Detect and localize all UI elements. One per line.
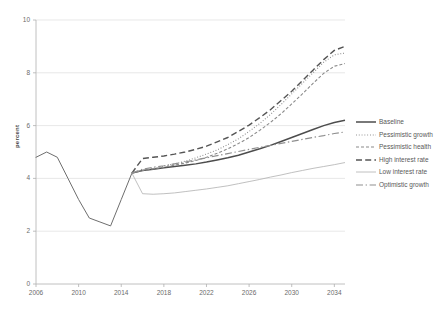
legend-item-pessimistic-growth[interactable]: Pessimistic growth — [355, 129, 443, 141]
legend-item-label: Optimistic growth — [377, 180, 429, 190]
x-tick-label: 2034 — [314, 289, 354, 296]
legend-item-label: Low interest rate — [377, 167, 427, 177]
series-history-line — [36, 152, 132, 226]
legend-item-low-interest-rate[interactable]: Low interest rate — [355, 166, 443, 178]
legend-line-swatch-icon — [355, 167, 377, 177]
y-tick-label: 10 — [12, 16, 30, 23]
y-tick-label: 8 — [12, 69, 30, 76]
x-tick-label: 2026 — [229, 289, 269, 296]
legend-item-optimistic-growth[interactable]: Optimistic growth — [355, 179, 443, 191]
legend-item-label: High interest rate — [377, 155, 429, 165]
x-tick-label: 2006 — [16, 289, 56, 296]
x-tick-label: 2022 — [186, 289, 226, 296]
y-tick-label: 2 — [12, 227, 30, 234]
x-tick-label: 2018 — [144, 289, 184, 296]
legend-line-swatch-icon — [355, 180, 377, 190]
legend-item-pessimistic-health[interactable]: Pessimistic health — [355, 141, 443, 153]
legend-line-swatch-icon — [355, 130, 377, 140]
series-line-high-interest-rate — [132, 46, 345, 173]
y-tick-label: 6 — [12, 122, 30, 129]
legend-line-swatch-icon — [355, 117, 377, 127]
y-tick-label: 0 — [12, 280, 30, 287]
legend-item-baseline[interactable]: Baseline — [355, 116, 443, 128]
y-tick-label: 4 — [12, 174, 30, 181]
series-line-pessimistic-health — [132, 64, 345, 174]
legend-item-label: Pessimistic growth — [377, 130, 433, 140]
chart-figure: percent 0246810 200620102014201820222026… — [0, 0, 444, 312]
legend-line-swatch-icon — [355, 142, 377, 152]
legend-item-high-interest-rate[interactable]: High interest rate — [355, 154, 443, 166]
legend-item-label: Baseline — [377, 117, 404, 127]
x-tick-label: 2030 — [272, 289, 312, 296]
legend-item-label: Pessimistic health — [377, 142, 431, 152]
legend-line-swatch-icon — [355, 155, 377, 165]
chart-legend: BaselinePessimistic growthPessimistic he… — [355, 116, 443, 191]
x-tick-label: 2014 — [101, 289, 141, 296]
x-tick-label: 2010 — [59, 289, 99, 296]
